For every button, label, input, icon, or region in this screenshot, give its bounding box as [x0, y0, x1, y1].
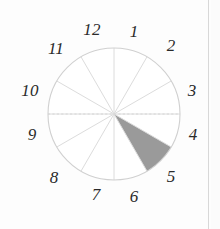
- hour-label-1: 1: [130, 23, 139, 40]
- hour-label-11: 11: [48, 40, 64, 57]
- hour-label-4: 4: [189, 126, 198, 143]
- hour-label-9: 9: [28, 126, 37, 143]
- hour-label-3: 3: [188, 82, 197, 99]
- hour-label-5: 5: [167, 168, 176, 185]
- page-margin-strip: [211, 0, 220, 229]
- clock-face-svg: [0, 0, 220, 229]
- clock-face-diagram: 121234567891011: [0, 0, 220, 229]
- hour-label-8: 8: [50, 169, 59, 186]
- page-edge-line: [208, 0, 209, 229]
- hour-label-7: 7: [92, 186, 101, 203]
- hour-label-10: 10: [21, 82, 38, 99]
- hour-label-6: 6: [130, 188, 139, 205]
- hour-label-2: 2: [167, 37, 176, 54]
- hour-label-12: 12: [83, 21, 100, 38]
